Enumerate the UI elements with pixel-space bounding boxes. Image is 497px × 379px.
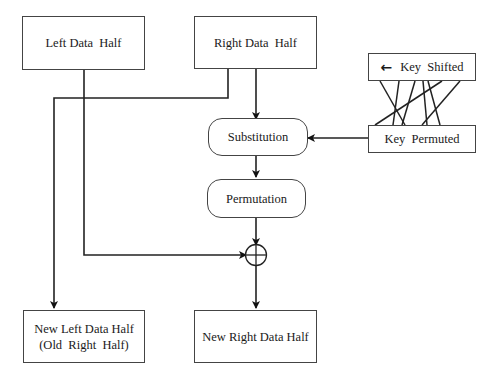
key-shifted-label: Key Shifted bbox=[400, 59, 463, 75]
substitution-box: Substitution bbox=[208, 118, 308, 156]
key-shifted-box: ← Key Shifted bbox=[368, 53, 476, 81]
left-data-half-label: Left Data Half bbox=[45, 35, 121, 51]
edge-right-to-new-left bbox=[54, 69, 228, 308]
substitution-label: Substitution bbox=[228, 129, 288, 145]
xor-icon bbox=[246, 245, 267, 266]
new-right-label: New Right Data Half bbox=[202, 329, 309, 345]
permutation-box: Permutation bbox=[207, 179, 306, 218]
permutation-label: Permutation bbox=[226, 191, 287, 207]
new-left-label-line2: (Old Right Half) bbox=[39, 337, 129, 353]
new-left-label-line1: New Left Data Half bbox=[34, 321, 134, 337]
key-permuted-label: Key Permuted bbox=[385, 131, 460, 147]
right-data-half-label: Right Data Half bbox=[214, 35, 297, 51]
new-left-data-half-box: New Left Data Half (Old Right Half) bbox=[23, 310, 145, 363]
key-permuted-box: Key Permuted bbox=[368, 125, 476, 153]
new-right-data-half-box: New Right Data Half bbox=[194, 310, 317, 363]
feistel-diagram: Left Data Half Right Data Half ← Key Shi… bbox=[0, 0, 497, 379]
key-permutation-crossings bbox=[375, 81, 460, 125]
right-data-half-box: Right Data Half bbox=[194, 16, 317, 69]
left-data-half-box: Left Data Half bbox=[22, 16, 145, 70]
left-arrow-icon: ← bbox=[381, 59, 393, 75]
